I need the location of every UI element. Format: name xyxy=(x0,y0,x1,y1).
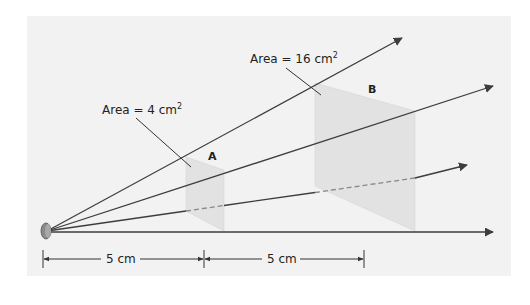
the-diagram: Area = 4 cm2 Area = 16 cm2 A B 5 cm 5 cm xyxy=(0,0,530,305)
area-b-label: Area = 16 cm2 xyxy=(250,51,338,66)
panel-b-label: B xyxy=(368,83,376,96)
light-source-face-icon xyxy=(45,224,51,238)
distance-1-label: 5 cm xyxy=(106,252,136,266)
area-a-label: Area = 4 cm2 xyxy=(102,102,182,117)
panel-a-label: A xyxy=(208,150,217,163)
distance-2-label: 5 cm xyxy=(267,252,297,266)
